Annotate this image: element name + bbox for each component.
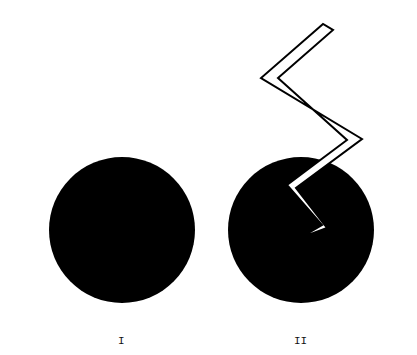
figure-label-i: I bbox=[118, 335, 125, 347]
circle-figure-i bbox=[49, 157, 195, 303]
figure-label-ii: II bbox=[294, 335, 307, 347]
diagram-canvas: I II bbox=[0, 0, 417, 355]
